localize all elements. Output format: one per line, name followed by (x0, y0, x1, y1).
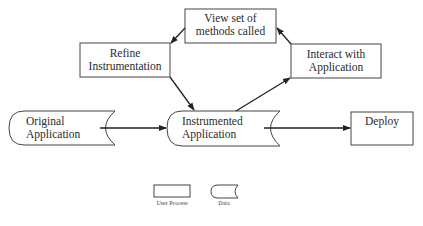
legend-process-label: User Process (144, 200, 200, 206)
legend-data-shape (211, 185, 238, 198)
original-application-label: Original Application (26, 115, 86, 141)
edge-refine-to-instrumented (170, 77, 194, 110)
deploy-label: Deploy (351, 115, 413, 128)
legend-data-label: Data (204, 200, 244, 206)
edge-view-to-refine (171, 28, 185, 43)
instrumented-application-label: Instrumented Application (182, 115, 262, 141)
edge-interact-to-view (277, 28, 291, 44)
legend-process-shape (154, 185, 190, 197)
interact-application-label: Interact with Application (291, 48, 381, 74)
view-methods-label: View set of methods called (185, 12, 276, 38)
edge-instrumented-to-interact (236, 78, 290, 111)
refine-instrumentation-label: Refine Instrumentation (80, 47, 170, 73)
